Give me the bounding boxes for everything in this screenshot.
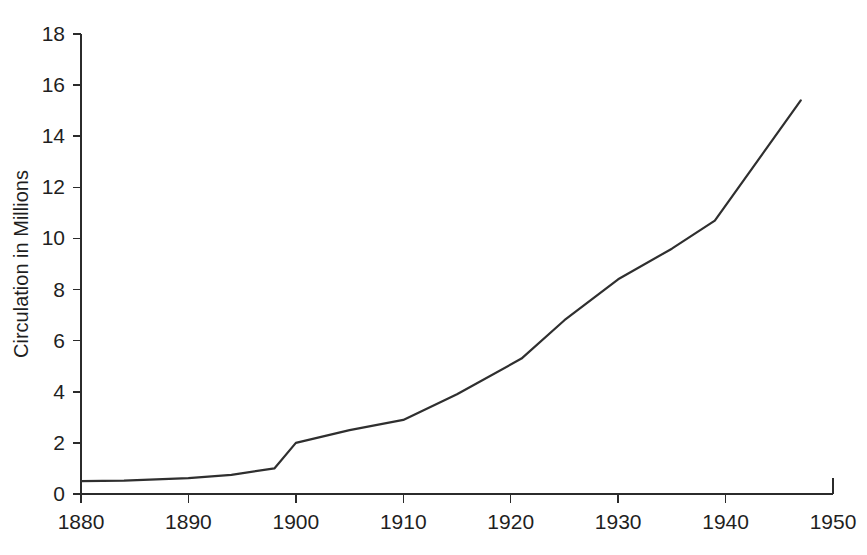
x-tick-label: 1910 [380, 510, 427, 533]
y-tick-label: 16 [42, 73, 65, 96]
y-tick-label: 10 [42, 226, 65, 249]
x-tick-label: 1900 [272, 510, 319, 533]
y-tick-label: 4 [53, 380, 65, 403]
x-tick-label: 1880 [58, 510, 105, 533]
x-tick-label: 1950 [810, 510, 857, 533]
line-chart: 024681012141618 188018901900191019201930… [0, 0, 867, 555]
x-tick-label: 1930 [595, 510, 642, 533]
x-tick-label: 1890 [165, 510, 212, 533]
chart-background [0, 0, 867, 555]
y-tick-label: 0 [53, 482, 65, 505]
y-tick-label: 18 [42, 22, 65, 45]
x-tick-label: 1920 [487, 510, 534, 533]
chart-page: 024681012141618 188018901900191019201930… [0, 0, 867, 555]
y-tick-label: 12 [42, 175, 65, 198]
y-tick-label: 6 [53, 329, 65, 352]
y-tick-label: 8 [53, 278, 65, 301]
x-tick-label: 1940 [702, 510, 749, 533]
y-axis-title: Circulation in Millions [10, 170, 32, 358]
y-tick-label: 14 [42, 124, 66, 147]
y-tick-label: 2 [53, 431, 65, 454]
